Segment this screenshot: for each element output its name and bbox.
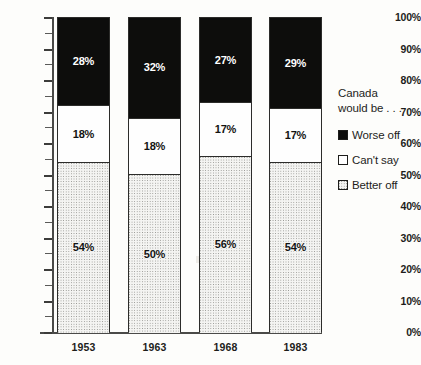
y-axis-tick-label: 0% bbox=[377, 326, 421, 338]
y-axis-minor-tick bbox=[45, 316, 52, 317]
bar-1983: 29%17%54% bbox=[269, 17, 322, 332]
legend-title: Canada would be . . . bbox=[338, 86, 420, 116]
legend-entry-list: Worse offCan't sayBetter off bbox=[338, 129, 420, 191]
bar-value-label: 18% bbox=[73, 129, 94, 140]
bar-value-label: 50% bbox=[144, 249, 165, 260]
bar-value-label: 56% bbox=[215, 239, 236, 250]
bar-segment-cant-say: 17% bbox=[200, 103, 251, 157]
y-axis-tick bbox=[44, 112, 52, 114]
y-axis-tick-label: 80% bbox=[377, 74, 421, 86]
legend-entry-label: Worse off bbox=[352, 129, 400, 141]
x-axis-tick-label: 1963 bbox=[120, 341, 190, 353]
y-axis-tick bbox=[44, 238, 52, 240]
chart-legend: Canada would be . . . Worse offCan't say… bbox=[338, 86, 420, 191]
y-axis-tick bbox=[44, 206, 52, 208]
y-axis-tick bbox=[44, 17, 52, 19]
y-axis-tick-label: 30% bbox=[377, 232, 421, 244]
stacked-bar-chart: 100%90%80%70%60%50%40%30%20%10%0% 195319… bbox=[0, 0, 421, 365]
legend-title-line-2: would be . . . bbox=[338, 101, 420, 116]
y-axis-tick-label: 40% bbox=[377, 200, 421, 212]
y-axis-tick-label: 100% bbox=[377, 11, 421, 23]
y-axis-tick bbox=[44, 269, 52, 271]
bar-segment-worse-off: 32% bbox=[129, 18, 180, 119]
x-axis-tick-label: 1983 bbox=[261, 341, 331, 353]
y-axis-minor-tick bbox=[45, 96, 52, 97]
bar-segment-cant-say: 18% bbox=[58, 106, 109, 163]
bar-value-label: 28% bbox=[73, 56, 94, 67]
bar-segment-worse-off: 27% bbox=[200, 18, 251, 103]
y-axis-tick-label: 90% bbox=[377, 43, 421, 55]
legend-entry-label: Better off bbox=[352, 179, 397, 191]
bar-value-label: 54% bbox=[285, 242, 306, 253]
bar-value-label: 54% bbox=[73, 242, 94, 253]
y-axis-minor-tick bbox=[45, 190, 52, 191]
bar-segment-cant-say: 18% bbox=[129, 119, 180, 176]
y-axis-minor-tick bbox=[45, 159, 52, 160]
bar-segment-better-off: 56% bbox=[200, 157, 251, 333]
bar-segment-worse-off: 28% bbox=[58, 18, 109, 106]
legend-entry: Can't say bbox=[338, 154, 420, 166]
bar-segment-worse-off: 29% bbox=[270, 18, 321, 109]
y-axis-minor-tick bbox=[45, 222, 52, 223]
y-axis-tick-label: 20% bbox=[377, 263, 421, 275]
bar-segment-better-off: 50% bbox=[129, 175, 180, 333]
x-axis-tick-label: 1968 bbox=[191, 341, 261, 353]
black-square-icon bbox=[338, 130, 348, 140]
bar-segment-better-off: 54% bbox=[58, 163, 109, 333]
y-axis-minor-tick bbox=[45, 253, 52, 254]
bar-value-label: 17% bbox=[285, 130, 306, 141]
bar-1953: 28%18%54% bbox=[57, 17, 110, 332]
y-axis-tick bbox=[44, 301, 52, 303]
bar-1968: 27%17%56% bbox=[199, 17, 252, 332]
legend-entry: Better off bbox=[338, 179, 420, 191]
legend-title-line-1: Canada bbox=[338, 86, 420, 101]
y-axis-tick bbox=[44, 49, 52, 51]
y-axis-minor-tick bbox=[45, 127, 52, 128]
bar-1963: 32%18%50% bbox=[128, 17, 181, 332]
y-axis-tick bbox=[44, 332, 52, 334]
y-axis-minor-tick bbox=[45, 33, 52, 34]
y-axis-tick bbox=[44, 175, 52, 177]
bar-value-label: 32% bbox=[144, 62, 165, 73]
dotted-square-icon bbox=[338, 180, 348, 190]
bar-value-label: 18% bbox=[144, 141, 165, 152]
bar-value-label: 29% bbox=[285, 58, 306, 69]
y-axis-minor-tick bbox=[45, 64, 52, 65]
white-square-icon bbox=[338, 155, 348, 165]
y-axis-minor-tick bbox=[45, 285, 52, 286]
y-axis-tick bbox=[44, 80, 52, 82]
legend-entry-label: Can't say bbox=[352, 154, 399, 166]
bar-value-label: 27% bbox=[215, 55, 236, 66]
legend-entry: Worse off bbox=[338, 129, 420, 141]
x-axis-tick-label: 1953 bbox=[49, 341, 119, 353]
y-axis-tick-label: 10% bbox=[377, 295, 421, 307]
bar-segment-cant-say: 17% bbox=[270, 109, 321, 163]
y-axis-tick bbox=[44, 143, 52, 145]
bar-value-label: 17% bbox=[215, 124, 236, 135]
bar-segment-better-off: 54% bbox=[270, 163, 321, 333]
y-axis-line bbox=[52, 17, 54, 334]
